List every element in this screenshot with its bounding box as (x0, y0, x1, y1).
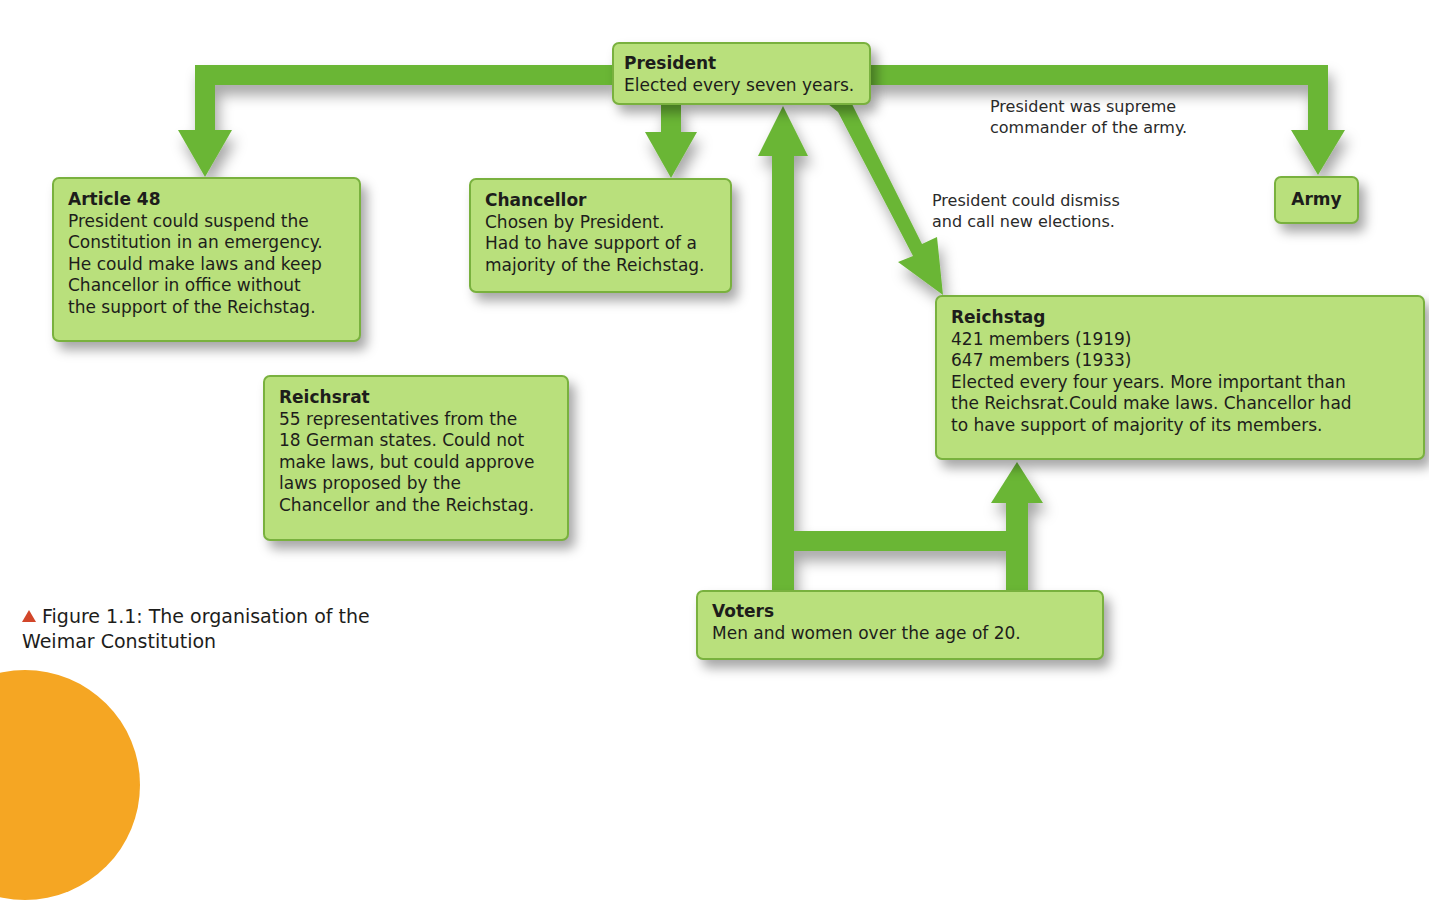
arrow-president-to-chancellor (645, 104, 697, 178)
reichstag-line-1: 421 members (1919) (951, 329, 1409, 351)
army-box: Army (1274, 176, 1359, 224)
president-desc: Elected every seven years. (624, 75, 859, 97)
chancellor-title: Chancellor (485, 190, 716, 212)
article48-box: Article 48 President could suspend the C… (52, 177, 361, 342)
article48-line-2: Constitution in an emergency. (68, 232, 345, 254)
chancellor-line-1: Chosen by President. (485, 212, 716, 234)
reichstag-box: Reichstag 421 members (1919) 647 members… (935, 295, 1425, 460)
article48-line-3: He could make laws and keep (68, 254, 345, 276)
dismiss-note: President could dismiss and call new ele… (932, 190, 1120, 232)
chancellor-line-2: Had to have support of a (485, 233, 716, 255)
voters-box: Voters Men and women over the age of 20. (696, 590, 1104, 660)
reichstag-title: Reichstag (951, 307, 1409, 329)
arrow-president-to-reichstag (828, 104, 943, 295)
reichsrat-title: Reichsrat (279, 387, 553, 409)
voters-desc: Men and women over the age of 20. (712, 623, 1088, 645)
arrow-president-to-article48 (178, 65, 615, 177)
reichsrat-line-3: make laws, but could approve (279, 452, 553, 474)
chancellor-line-3: majority of the Reichstag. (485, 255, 716, 277)
reichstag-line-5: to have support of majority of its membe… (951, 415, 1409, 437)
chancellor-box: Chancellor Chosen by President. Had to h… (469, 178, 732, 293)
article48-line-1: President could suspend the (68, 211, 345, 233)
reichstag-line-4: the Reichsrat.Could make laws. Chancello… (951, 393, 1409, 415)
arrow-voters-to-reichstag (794, 462, 1043, 592)
president-box: President Elected every seven years. (612, 42, 871, 105)
dismiss-line-2: and call new elections. (932, 211, 1120, 232)
reichstag-line-3: Elected every four years. More important… (951, 372, 1409, 394)
reichsrat-line-5: Chancellor and the Reichstag. (279, 495, 553, 517)
army-title: Army (1276, 189, 1357, 211)
caption-line-2: Weimar Constitution (22, 629, 370, 654)
reichsrat-box: Reichsrat 55 representatives from the 18… (263, 375, 569, 541)
article48-line-4: Chancellor in office without (68, 275, 345, 297)
article48-title: Article 48 (68, 189, 345, 211)
reichsrat-line-4: laws proposed by the (279, 473, 553, 495)
voters-title: Voters (712, 601, 1088, 623)
triangle-marker-icon (22, 610, 36, 622)
army-command-line-1: President was supreme (990, 96, 1187, 117)
caption-text-1: Figure 1.1: The organisation of the (42, 605, 370, 627)
figure-caption: Figure 1.1: The organisation of the Weim… (22, 604, 370, 654)
dismiss-line-1: President could dismiss (932, 190, 1120, 211)
reichsrat-line-1: 55 representatives from the (279, 409, 553, 431)
army-command-note: President was supreme commander of the a… (990, 96, 1187, 138)
army-command-line-2: commander of the army. (990, 117, 1187, 138)
article48-line-5: the support of the Reichstag. (68, 297, 345, 319)
arrow-voters-to-president (758, 106, 808, 592)
president-title: President (624, 53, 859, 75)
caption-line-1: Figure 1.1: The organisation of the (22, 604, 370, 629)
reichsrat-line-2: 18 German states. Could not (279, 430, 553, 452)
reichstag-line-2: 647 members (1933) (951, 350, 1409, 372)
